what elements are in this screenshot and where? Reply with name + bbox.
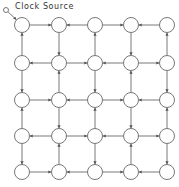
grid-node [124,93,139,108]
grid-node [124,56,139,71]
grid-node [88,129,103,144]
grid-node [124,165,139,180]
clock-grid-diagram [0,0,179,187]
grid-node [52,129,67,144]
grid-node [52,56,67,71]
grid-node [15,18,30,33]
grid-node [88,165,103,180]
grid-node [160,18,175,33]
grid-node [160,56,175,71]
grid-node [160,165,175,180]
grid-node [88,56,103,71]
grid-node [15,129,30,144]
grid-node [124,129,139,144]
grid-node [15,165,30,180]
grid-node [52,18,67,33]
grid-node [15,56,30,71]
grid-node [52,165,67,180]
edges-layer [8,12,167,172]
grid-node [160,93,175,108]
grid-node [124,18,139,33]
grid-node [160,129,175,144]
nodes-layer [4,8,175,180]
grid-node [88,18,103,33]
clock-source-node [4,8,9,13]
grid-node [88,93,103,108]
grid-node [15,93,30,108]
clock-source-edge [8,12,17,20]
grid-node [52,93,67,108]
